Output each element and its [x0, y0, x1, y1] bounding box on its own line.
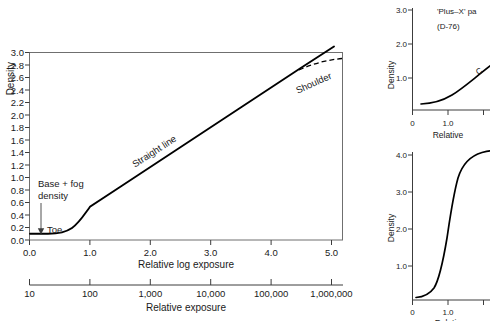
- y-tick-1-4: 1.4: [11, 147, 24, 158]
- x-tick-5-0: 5.0: [325, 247, 338, 258]
- br-y-tick-3-0: 3.0: [396, 188, 408, 197]
- annotation-base-fog-line2: density: [38, 190, 68, 201]
- br-x-tick-1-0: 1.0: [442, 308, 454, 317]
- tr-y-axis-title: Density: [386, 60, 396, 89]
- y-tick-0-0: 0.0: [11, 235, 24, 246]
- br-y-tick-labels: 4.0 3.0 2.0 1.0: [396, 151, 408, 271]
- main-x-axis-title: Relative log exposure: [138, 259, 235, 270]
- annotation-base-fog-line1: Base + fog: [38, 178, 84, 189]
- exposure-tick-10: 10: [24, 288, 35, 299]
- tr-x-ticks: [413, 110, 484, 115]
- main-x-ticks: [30, 240, 332, 245]
- y-tick-1-6: 1.6: [11, 135, 24, 146]
- y-tick-0-8: 0.8: [11, 185, 24, 196]
- y-tick-3-0: 3.0: [11, 47, 24, 58]
- x-tick-3-0: 3.0: [204, 247, 217, 258]
- x-tick-4-0: 4.0: [264, 247, 277, 258]
- y-tick-2-6: 2.6: [11, 72, 24, 83]
- br-y-ticks: [408, 155, 413, 266]
- tr-title-line1: 'Plus–X' pa: [437, 7, 477, 16]
- y-tick-0-4: 0.4: [11, 210, 24, 221]
- main-plot-frame: [30, 53, 343, 241]
- y-tick-0-6: 0.6: [11, 197, 24, 208]
- tr-x-axis-title: Relative: [433, 130, 464, 140]
- y-tick-0-2: 0.2: [11, 222, 24, 233]
- tr-x-tick-1-0: 1.0: [442, 119, 454, 128]
- tr-title-line2: (D-76): [437, 22, 460, 31]
- base-fog-leader-arrow: [38, 203, 44, 235]
- main-secondary-axis: [30, 279, 344, 285]
- exposure-tick-1000: 1,000: [138, 288, 162, 299]
- br-y-tick-1-0: 1.0: [396, 262, 408, 271]
- exposure-tick-1000000: 1,000,000: [310, 288, 352, 299]
- br-y-tick-2-0: 2.0: [396, 225, 408, 234]
- br-y-tick-4-0: 4.0: [396, 151, 408, 160]
- tr-y-tick-2-0: 2.0: [396, 40, 408, 49]
- characteristic-curve-figure: Density 3.0 2.8 2.6 2.4 2.2: [0, 0, 490, 321]
- main-chart: Density 3.0 2.8 2.6 2.4 2.2: [5, 47, 353, 314]
- figure-canvas: Density 3.0 2.8 2.6 2.4 2.2: [0, 0, 490, 321]
- y-tick-1-2: 1.2: [11, 160, 24, 171]
- br-x-tick-0: 0: [410, 308, 415, 317]
- annotation-toe: Toe: [47, 224, 62, 235]
- x-tick-0-0: 0.0: [23, 247, 36, 258]
- exposure-tick-100: 100: [82, 288, 98, 299]
- main-characteristic-curve: [30, 47, 334, 234]
- main-x-tick-labels: 0.0 1.0 2.0 3.0 4.0 5.0: [23, 247, 338, 258]
- tr-x-tick-0: 0: [410, 119, 415, 128]
- bottom-right-chart: 4.0 3.0 2.0 1.0 Density 0 1.0 Relative: [386, 151, 490, 321]
- br-x-tick-labels: 0 1.0: [410, 308, 454, 317]
- tr-y-tick-1-0: 1.0: [396, 74, 408, 83]
- top-right-chart: 3.0 2.0 1.0 Density 0 1.0 Relative 'Plus…: [386, 6, 490, 140]
- main-y-tick-labels: 3.0 2.8 2.6 2.4 2.2 2.0 1.8 1.6 1.4 1.2 …: [11, 47, 24, 246]
- y-tick-2-2: 2.2: [11, 97, 24, 108]
- y-tick-2-8: 2.8: [11, 60, 24, 71]
- y-tick-1-0: 1.0: [11, 172, 24, 183]
- tr-x-tick-labels: 0 1.0: [410, 119, 454, 128]
- main-secondary-axis-title: Relative exposure: [146, 302, 226, 313]
- tr-y-tick-labels: 3.0 2.0 1.0: [396, 6, 408, 83]
- x-tick-2-0: 2.0: [144, 247, 157, 258]
- main-secondary-tick-labels: 10 100 1,000 10,000 100,000 1,000,000: [24, 288, 352, 299]
- br-curve: [416, 151, 490, 298]
- y-tick-2-0: 2.0: [11, 110, 24, 121]
- annotation-shoulder: Shoulder: [294, 70, 333, 96]
- exposure-tick-10000: 10,000: [196, 288, 225, 299]
- br-x-ticks: [413, 300, 484, 305]
- y-tick-2-4: 2.4: [11, 85, 24, 96]
- tr-y-tick-3-0: 3.0: [396, 6, 408, 15]
- tr-y-ticks: [408, 10, 413, 78]
- y-tick-1-8: 1.8: [11, 122, 24, 133]
- main-y-ticks: [25, 53, 30, 241]
- br-y-axis-title: Density: [386, 213, 396, 242]
- exposure-tick-100000: 100,000: [254, 288, 288, 299]
- x-tick-1-0: 1.0: [83, 247, 96, 258]
